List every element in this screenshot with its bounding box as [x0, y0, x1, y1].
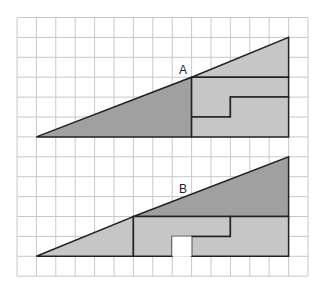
figure-b-label: B	[179, 182, 187, 196]
figure-a: A	[36, 37, 288, 136]
figure-b: B	[36, 157, 288, 256]
figure-b-missing-square	[172, 236, 191, 256]
figure-a-label: A	[179, 63, 187, 77]
puzzle-diagram: A B	[0, 0, 322, 290]
